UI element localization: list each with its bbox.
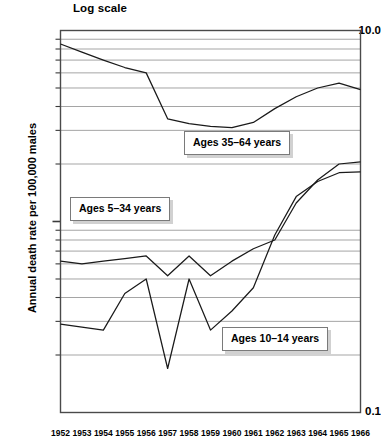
plot-area [0, 0, 381, 447]
chart-figure: Log scale Annual death rate per 100,000 … [0, 0, 381, 447]
series-line-0 [61, 44, 361, 128]
series-label-ages-10-14: Ages 10–14 years [222, 327, 328, 351]
series-label-ages-5-34: Ages 5–34 years [70, 197, 170, 221]
x-axis-tick-label: 1966 [346, 428, 376, 438]
y-axis-ticks [53, 39, 61, 355]
series-label-ages-35-64: Ages 35–64 years [184, 131, 290, 155]
